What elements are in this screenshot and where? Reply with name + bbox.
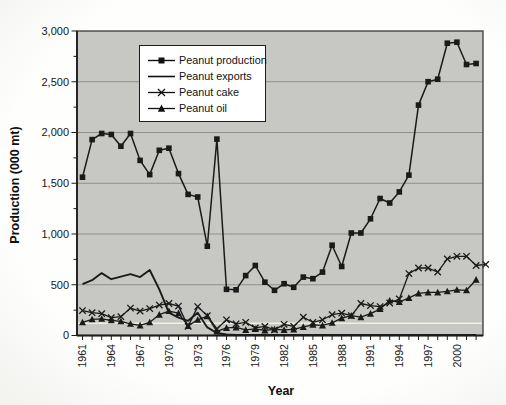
marker-square: [128, 131, 134, 137]
x-tick-label: 2000: [451, 344, 463, 368]
marker-square: [425, 79, 431, 85]
marker-square: [166, 145, 172, 151]
marker-square: [387, 200, 393, 206]
marker-square: [224, 287, 230, 293]
marker-square: [233, 287, 239, 293]
legend-label-cake: Peanut cake: [179, 87, 239, 98]
x-tick-label: 1997: [422, 344, 434, 368]
x-tick-label: 1991: [364, 344, 376, 368]
marker-square: [301, 274, 307, 280]
legend-label-oil: Peanut oil: [179, 103, 227, 114]
legend-label-production: Peanut production: [179, 55, 267, 66]
marker-square: [137, 158, 143, 164]
marker-square: [464, 62, 470, 68]
x-tick-label: 1985: [307, 344, 319, 368]
marker-square: [377, 196, 383, 202]
x-tick-label: 1967: [134, 344, 146, 368]
marker-square: [397, 189, 403, 195]
marker-square: [406, 172, 412, 178]
legend-marker-triangle-icon: [148, 104, 175, 113]
legend-row-cake: Peanut cake: [148, 84, 261, 100]
legend-row-oil: Peanut oil: [148, 100, 261, 116]
legend-marker-line-icon: [148, 72, 175, 81]
y-tick-label: 2,500: [41, 76, 69, 88]
y-tick-label: 1,000: [41, 228, 69, 240]
marker-square: [435, 76, 441, 82]
marker-square: [205, 243, 211, 249]
marker-square: [109, 132, 115, 138]
marker-square: [416, 102, 422, 108]
y-tick-label: 0: [63, 329, 69, 341]
marker-square: [368, 216, 374, 222]
marker-square: [473, 61, 479, 67]
legend-label-exports: Peanut exports: [179, 71, 252, 82]
marker-square: [99, 131, 105, 137]
legend-marker-square-icon: [148, 56, 175, 65]
peanut-statistics-chart: 05001,0001,5002,0002,5003,00019611964196…: [0, 0, 506, 405]
x-tick-label: 1964: [105, 344, 117, 368]
x-tick-label: 1988: [336, 344, 348, 368]
legend-row-production: Peanut production: [148, 52, 261, 68]
marker-square: [445, 40, 451, 46]
marker-square: [195, 194, 201, 200]
marker-square: [80, 174, 86, 180]
x-tick-label: 1994: [393, 344, 405, 368]
marker-square: [310, 276, 316, 282]
marker-square: [454, 39, 460, 45]
y-tick-label: 3,000: [41, 25, 69, 37]
legend: Peanut production Peanut exports Peanut …: [139, 45, 266, 122]
legend-marker-x-icon: [148, 88, 175, 97]
marker-square: [339, 264, 345, 270]
y-axis-title: Production (000 mt): [8, 126, 22, 243]
marker-square: [214, 136, 220, 142]
x-tick-label: 1961: [76, 344, 88, 368]
x-tick-label: 1982: [278, 344, 290, 368]
marker-square: [147, 172, 153, 178]
marker-square: [262, 279, 268, 285]
x-tick-label: 1976: [220, 344, 232, 368]
x-tick-label: 1973: [192, 344, 204, 368]
marker-square: [329, 242, 335, 248]
marker-square: [349, 230, 355, 236]
marker-square: [320, 269, 326, 275]
marker-square: [291, 285, 297, 291]
x-tick-label: 1970: [163, 344, 175, 368]
x-tick-label: 1979: [249, 344, 261, 368]
y-tick-label: 2,000: [41, 126, 69, 138]
marker-square: [118, 143, 124, 149]
marker-square: [89, 137, 95, 143]
marker-square: [243, 273, 249, 279]
y-tick-label: 500: [51, 279, 69, 291]
marker-square: [272, 288, 278, 294]
marker-square: [358, 230, 364, 236]
marker-square: [157, 148, 163, 154]
legend-row-exports: Peanut exports: [148, 68, 261, 84]
x-axis-title: Year: [268, 384, 294, 398]
y-tick-label: 1,500: [41, 177, 69, 189]
marker-square: [253, 263, 259, 269]
marker-square: [176, 171, 182, 177]
marker-square: [185, 192, 191, 198]
marker-square: [281, 281, 287, 287]
